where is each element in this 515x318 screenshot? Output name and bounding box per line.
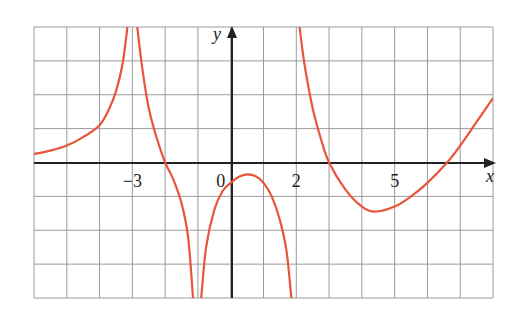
axes <box>34 26 496 298</box>
x-tick-label: 5 <box>390 171 399 191</box>
curve-branch-3 <box>201 174 291 298</box>
y-axis-arrow-icon <box>227 26 237 38</box>
y-axis-label: y <box>211 24 221 44</box>
curve-branch-1 <box>34 27 127 154</box>
x-axis-label: x <box>485 166 494 186</box>
x-tick-label: −3 <box>123 171 142 191</box>
x-tick-label: 2 <box>292 171 301 191</box>
function-graph: −3025 x y <box>0 0 515 318</box>
